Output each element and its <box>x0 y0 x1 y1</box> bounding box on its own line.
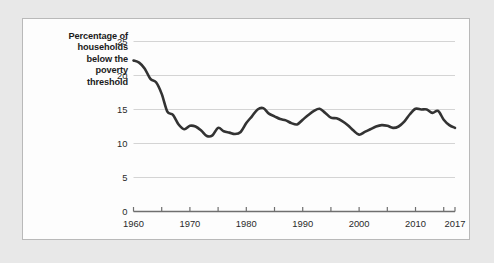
x-axis-tick-label: 1990 <box>283 218 323 229</box>
y-axis-tick-label: 10 <box>102 138 128 149</box>
y-axis-tick-label: 0 <box>102 206 128 217</box>
x-axis-tick-label: 1980 <box>226 218 266 229</box>
y-axis-tick-label: 5 <box>102 172 128 183</box>
y-axis-tick-label: 20 <box>102 70 128 81</box>
x-axis-tick-label: 1970 <box>170 218 210 229</box>
x-axis-tick-label: 2010 <box>396 218 436 229</box>
y-axis-tick-label: 25 <box>102 36 128 47</box>
x-axis-tick-label: 2000 <box>339 218 379 229</box>
y-axis-tick-label: 15 <box>102 104 128 115</box>
gridlines <box>134 42 456 178</box>
poverty-rate-series <box>134 61 456 137</box>
x-axis-tick-label: 1960 <box>114 218 154 229</box>
x-axis <box>134 207 456 212</box>
x-axis-tick-label: 2017 <box>435 218 475 229</box>
